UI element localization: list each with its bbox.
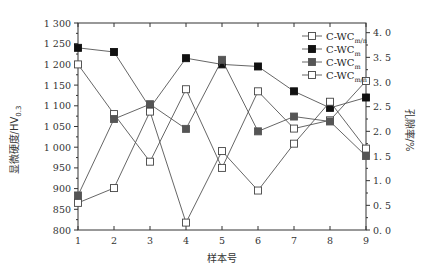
right-tick-label: 1. 5: [373, 151, 391, 162]
left-tick-label: 1 050: [44, 121, 71, 132]
right-tick-label: 1. 0: [373, 175, 391, 186]
data-marker: [255, 187, 262, 194]
data-marker: [183, 55, 190, 62]
data-marker: [219, 164, 226, 171]
legend-item: C-WCm: [302, 57, 361, 71]
data-marker: [75, 61, 82, 68]
data-marker: [111, 48, 118, 55]
data-marker: [309, 33, 316, 40]
left-axis: 8008509009501 0001 0501 1001 1501 2001 2…: [44, 18, 78, 236]
data-marker: [309, 59, 316, 66]
x-tick-label: 8: [327, 235, 333, 246]
left-tick-label: 1 200: [44, 59, 71, 70]
plot-frame: [78, 23, 366, 230]
data-marker: [75, 199, 82, 206]
data-marker: [255, 88, 262, 95]
data-marker: [219, 56, 226, 63]
left-tick-label: 1 300: [44, 18, 71, 29]
legend-label: C-WCm/n: [326, 31, 367, 45]
data-marker: [111, 185, 118, 192]
x-tick-label: 5: [219, 235, 225, 246]
data-marker: [183, 219, 190, 226]
left-tick-label: 950: [53, 162, 71, 173]
right-tick-label: 3. 0: [373, 77, 391, 88]
legend-label: C-WCm: [326, 44, 361, 58]
x-tick-label: 9: [363, 235, 369, 246]
x-tick-label: 4: [183, 235, 189, 246]
left-tick-label: 1 000: [44, 142, 71, 153]
left-axis-title-sub: 0.3: [15, 106, 23, 117]
data-marker: [147, 158, 154, 165]
legend: C-WCm/nC-WCmC-WCmC-WCm/n: [302, 31, 367, 84]
x-tick-label: 6: [255, 235, 261, 246]
data-marker: [363, 153, 370, 160]
plot-border: [78, 23, 366, 230]
right-tick-label: 4. 0: [373, 27, 391, 38]
left-tick-label: 900: [53, 183, 71, 194]
data-marker: [363, 94, 370, 101]
legend-label: C-WCm: [326, 57, 361, 71]
left-tick-label: 1 100: [44, 100, 71, 111]
data-marker: [327, 98, 334, 105]
data-marker: [291, 140, 298, 147]
data-marker: [75, 44, 82, 51]
data-marker: [291, 88, 298, 95]
x-tick-label: 3: [147, 235, 153, 246]
data-marker: [147, 101, 154, 108]
data-marker: [75, 192, 82, 199]
x-tick-label: 1: [75, 235, 81, 246]
left-tick-label: 1 250: [44, 38, 71, 49]
right-tick-label: 0. 0: [373, 225, 391, 236]
left-tick-label: 800: [53, 225, 71, 236]
legend-item: C-WCm/n: [302, 70, 367, 84]
data-marker: [327, 118, 334, 125]
data-marker: [363, 145, 370, 152]
right-axis-title: 孔隙率/%: [404, 109, 416, 152]
right-axis: 0. 00. 51. 01. 52. 02. 53. 03. 54. 0: [366, 27, 391, 235]
data-marker: [309, 72, 316, 79]
right-tick-label: 2. 5: [373, 101, 391, 112]
data-marker: [255, 63, 262, 70]
series-line: [78, 102, 366, 223]
data-marker: [291, 125, 298, 132]
data-marker: [183, 125, 190, 132]
data-marker: [291, 113, 298, 120]
right-tick-label: 2. 0: [373, 126, 391, 137]
x-axis-title: 样本号: [207, 252, 237, 264]
data-marker: [309, 46, 316, 53]
x-tick-label: 7: [291, 235, 297, 246]
x-tick-label: 2: [111, 235, 117, 246]
left-axis-title-main: 显微硬度/HV: [8, 117, 20, 175]
data-marker: [183, 86, 190, 93]
data-marker: [219, 148, 226, 155]
right-tick-label: 0. 5: [373, 200, 391, 211]
data-marker: [147, 108, 154, 115]
right-tick-label: 3. 5: [373, 52, 391, 63]
legend-item: C-WCm: [302, 44, 361, 58]
series-line: [78, 60, 366, 196]
left-axis-title: 显微硬度/HV0.3: [8, 106, 23, 175]
legend-label: C-WCm/n: [326, 70, 367, 84]
data-marker: [111, 116, 118, 123]
left-tick-label: 850: [53, 204, 71, 215]
data-marker: [255, 128, 262, 135]
legend-item: C-WCm/n: [302, 31, 367, 45]
left-tick-label: 1 150: [44, 80, 71, 91]
chart: 8008509009501 0001 0501 1001 1501 2001 2…: [0, 0, 428, 277]
